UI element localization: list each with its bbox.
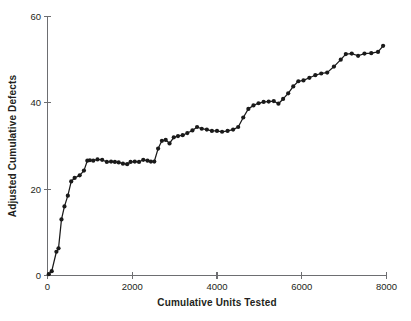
data-point	[121, 162, 125, 166]
y-axis-group: 60 40 20 0	[30, 11, 51, 281]
data-point	[69, 179, 73, 183]
data-point	[50, 269, 54, 273]
x-tick-label-6000: 6000	[291, 281, 312, 292]
data-point	[356, 54, 360, 58]
data-point	[73, 176, 77, 180]
data-point	[117, 160, 121, 164]
data-point	[256, 101, 260, 105]
data-point	[128, 160, 132, 164]
data-point	[350, 52, 354, 56]
data-point	[286, 91, 290, 95]
y-axis-title: Adjusted Cumulative Defects	[7, 75, 18, 218]
data-point	[195, 125, 199, 129]
data-point	[185, 131, 189, 135]
data-point	[276, 102, 280, 106]
x-tick-label-4000: 4000	[206, 281, 227, 292]
data-point	[325, 71, 329, 75]
x-axis-group: 0 2000 4000 6000 8000	[45, 272, 397, 292]
data-point	[113, 160, 117, 164]
data-point	[313, 73, 317, 77]
data-point	[82, 169, 86, 173]
data-point	[210, 129, 214, 133]
data-point	[291, 84, 295, 88]
data-point	[231, 128, 235, 132]
data-point	[160, 139, 164, 143]
data-point	[47, 272, 51, 276]
y-tick-label-40: 40	[30, 97, 41, 108]
data-point	[296, 79, 300, 83]
data-point	[301, 78, 305, 82]
series-markers	[47, 44, 386, 277]
x-axis-title: Cumulative Units Tested	[157, 297, 276, 308]
data-point	[200, 127, 204, 131]
x-tick-label-0: 0	[45, 281, 50, 292]
data-series-layer	[47, 44, 386, 277]
data-point	[215, 129, 219, 133]
data-point	[220, 130, 224, 134]
data-point	[167, 141, 171, 145]
data-point	[109, 159, 113, 163]
data-point	[78, 173, 82, 177]
y-tick-label-60: 60	[30, 11, 41, 22]
data-point	[172, 135, 176, 139]
data-point	[137, 160, 141, 164]
y-tick-label-20: 20	[30, 184, 41, 195]
data-point	[181, 133, 185, 137]
data-point	[281, 97, 285, 101]
data-point	[133, 159, 137, 163]
data-point	[62, 204, 66, 208]
data-point	[190, 128, 194, 132]
data-point	[272, 99, 276, 103]
data-point	[236, 125, 240, 129]
chart-figure: 60 40 20 0 0 2000 4000 6000 8000 Cumulat…	[0, 0, 411, 321]
data-point	[319, 71, 323, 75]
data-point	[176, 134, 180, 138]
data-point	[152, 159, 156, 163]
data-point	[339, 58, 343, 62]
data-point	[56, 246, 60, 250]
data-point	[156, 146, 160, 150]
data-point	[205, 128, 209, 132]
data-point	[262, 100, 266, 104]
data-point	[241, 115, 245, 119]
data-point	[100, 158, 104, 162]
data-point	[381, 44, 385, 48]
data-point	[164, 138, 168, 142]
data-point	[376, 50, 380, 54]
line-chart: 60 40 20 0 0 2000 4000 6000 8000 Cumulat…	[0, 0, 411, 321]
data-point	[225, 129, 229, 133]
data-point	[251, 103, 255, 107]
data-point	[362, 52, 366, 56]
data-point	[267, 99, 271, 103]
data-point	[59, 217, 63, 221]
data-point	[307, 76, 311, 80]
data-point	[141, 158, 145, 162]
data-point	[105, 160, 109, 164]
data-point	[91, 159, 95, 163]
data-point	[246, 107, 250, 111]
y-tick-label-0: 0	[36, 270, 41, 281]
x-tick-label-2000: 2000	[122, 281, 143, 292]
data-point	[66, 194, 70, 198]
x-tick-label-8000: 8000	[376, 281, 397, 292]
data-point	[344, 52, 348, 56]
data-point	[369, 51, 373, 55]
data-point	[95, 157, 99, 161]
data-point	[332, 64, 336, 68]
